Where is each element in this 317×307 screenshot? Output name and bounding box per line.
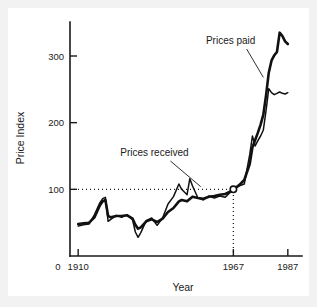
series-line-prices-paid [78,33,288,229]
y-axis-ticks: 100200300 [48,51,77,195]
x-origin-label: 0 [55,261,60,272]
reference-lines [70,189,233,256]
price-index-line-chart: 100200300 1910196719870 Prices paidPrice… [8,8,309,296]
annotations-group: Prices paidPrices received [120,35,263,187]
figure-root: 100200300 1910196719870 Prices paidPrice… [0,0,317,307]
prices-received-annotation-leader [170,161,200,187]
x-tick-label: 1967 [223,261,244,272]
y-axis-title: Price Index [14,111,26,164]
y-tick-label: 300 [48,51,64,62]
x-axis-ticks: 1910196719870 [55,249,298,272]
base-year-point [230,186,236,192]
x-axis-title: Year [172,281,194,293]
prices-paid-annotation-leader [247,49,264,77]
data-series-group [78,33,288,238]
prices-received-annotation-text: Prices received [120,147,188,158]
y-tick-label: 200 [48,117,64,128]
y-tick-label: 100 [48,184,64,195]
data-markers-group [230,186,236,192]
x-tick-label: 1987 [277,261,298,272]
chart-panel: 100200300 1910196719870 Prices paidPrice… [8,8,309,296]
x-tick-label: 1910 [68,261,89,272]
prices-paid-annotation-text: Prices paid [206,35,255,46]
series-line-prices-received [78,89,288,238]
